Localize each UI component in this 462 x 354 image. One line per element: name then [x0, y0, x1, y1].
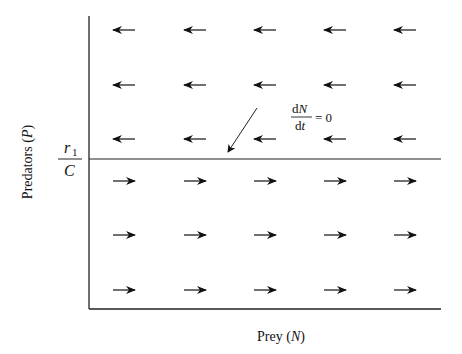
- isocline-level-label: r 1 C: [58, 139, 82, 179]
- label-numerator: r: [64, 139, 71, 156]
- annotation-rhs: = 0: [315, 110, 332, 125]
- phase-plane-diagram: r 1 C dN dt = 0 Prey (N) Predators (P): [0, 0, 462, 354]
- annotation-pointer-arrow: [228, 108, 257, 152]
- annotation-denominator: dt: [295, 118, 306, 133]
- y-axis-label: Predators (P): [20, 125, 36, 200]
- label-numerator-subscript: 1: [72, 146, 78, 158]
- x-axis-label: Prey (N): [257, 329, 305, 345]
- label-denominator: C: [64, 162, 75, 179]
- isocline-annotation: dN dt = 0: [228, 101, 332, 152]
- arrows-above-isocline: [113, 30, 416, 139]
- annotation-numerator: dN: [292, 101, 309, 116]
- arrows-below-isocline: [113, 181, 416, 290]
